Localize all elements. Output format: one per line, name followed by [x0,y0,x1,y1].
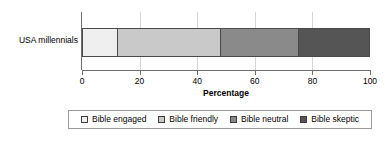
x-ticklabel-60: 60 [250,76,259,87]
stacked-bar-usa-millennials [82,28,370,57]
x-tick-0 [82,71,83,75]
legend-item-bible-skeptic[interactable]: Bible skeptic [300,114,359,125]
x-tick-100 [370,71,371,75]
bar-segment-bible-engaged[interactable] [82,28,117,57]
legend-swatch-icon-bible-friendly [158,116,165,123]
legend-swatch-icon-bible-skeptic [300,116,307,123]
x-ticklabel-20: 20 [135,76,144,87]
category-axis-label-usa-millennials: USA millennials [8,35,78,46]
x-axis-title: Percentage [82,88,370,99]
plot-area [82,12,370,70]
x-tick-60 [255,71,256,75]
x-tick-80 [312,71,313,75]
x-ticklabel-100: 100 [363,76,377,87]
legend-label-bible-friendly: Bible friendly [169,114,218,125]
stacked-bar-chart: USA millennials 0 20 40 60 80 100 Percen… [0,0,390,143]
legend-label-bible-neutral: Bible neutral [241,114,288,125]
legend: Bible engaged Bible friendly Bible neutr… [68,110,372,129]
x-ticklabel-0: 0 [80,76,85,87]
x-ticklabel-40: 40 [192,76,201,87]
legend-label-bible-engaged: Bible engaged [92,114,146,125]
legend-item-bible-friendly[interactable]: Bible friendly [158,114,218,125]
x-ticklabel-80: 80 [308,76,317,87]
x-tick-20 [140,71,141,75]
x-axis-line [82,70,371,71]
legend-item-bible-neutral[interactable]: Bible neutral [230,114,288,125]
x-tick-40 [197,71,198,75]
legend-swatch-icon-bible-engaged [81,116,88,123]
bar-segment-bible-neutral[interactable] [220,28,298,57]
bar-segment-bible-skeptic[interactable] [298,28,370,57]
legend-item-bible-engaged[interactable]: Bible engaged [81,114,146,125]
bar-segment-bible-friendly[interactable] [117,28,221,57]
legend-swatch-icon-bible-neutral [230,116,237,123]
legend-label-bible-skeptic: Bible skeptic [311,114,359,125]
